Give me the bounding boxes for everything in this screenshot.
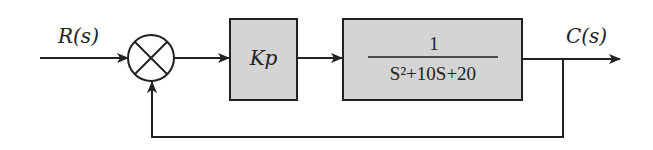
output-label: C(s) bbox=[566, 24, 607, 48]
block-diagram: R(s) Kp 1 S²+10S+20 C(s) bbox=[0, 0, 653, 150]
input-label: R(s) bbox=[57, 24, 99, 48]
plant-numerator: 1 bbox=[429, 33, 439, 54]
plant-denominator: S²+10S+20 bbox=[390, 63, 476, 84]
summing-junction bbox=[128, 35, 174, 81]
controller-label: Kp bbox=[249, 46, 278, 70]
plant-block bbox=[343, 19, 522, 100]
